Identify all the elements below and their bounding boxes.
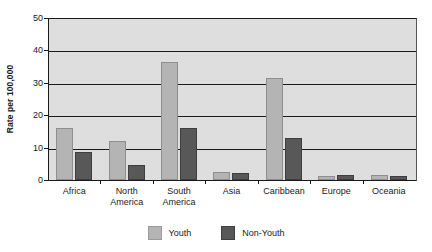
bar-youth-africa	[56, 128, 73, 180]
x-tick-mark	[310, 180, 311, 184]
y-tick-label: 30	[17, 78, 43, 88]
bar-youth-asia	[213, 172, 230, 180]
bar-youth-caribbean	[266, 78, 283, 180]
y-tick-mark	[44, 180, 48, 181]
bars-layer	[48, 18, 415, 180]
x-tick-mark	[205, 180, 206, 184]
y-tick-label: 20	[17, 110, 43, 120]
y-tick-label: 10	[17, 143, 43, 153]
y-tick-mark	[44, 18, 48, 19]
x-tick-mark	[363, 180, 364, 184]
x-axis-labels: AfricaNorthAmericaSouthAmericaAsiaCaribb…	[48, 186, 415, 214]
x-axis-line	[48, 180, 416, 181]
bar-group	[363, 18, 415, 180]
legend-entry-youth[interactable]: Youth	[148, 226, 192, 240]
bar-non-youth-north-america	[128, 165, 145, 180]
x-tick-mark	[258, 180, 259, 184]
chart-legend: YouthNon-Youth	[0, 222, 432, 244]
x-tick-mark	[100, 180, 101, 184]
bar-group	[48, 18, 100, 180]
y-tick-label: 40	[17, 45, 43, 55]
bar-non-youth-south-america	[180, 128, 197, 180]
legend-label: Non-Youth	[242, 228, 284, 238]
y-tick-mark	[44, 148, 48, 149]
bar-non-youth-africa	[75, 152, 92, 180]
bar-group	[153, 18, 205, 180]
bar-youth-south-america	[161, 62, 178, 180]
bar-group	[310, 18, 362, 180]
x-label-line: America	[145, 197, 213, 208]
x-tick-mark	[153, 180, 154, 184]
bar-group	[100, 18, 152, 180]
y-tick-mark	[44, 115, 48, 116]
y-axis-title: Rate per 100,000	[2, 18, 18, 180]
y-axis-title-text: Rate per 100,000	[5, 65, 15, 134]
y-tick-label: 50	[17, 13, 43, 23]
x-label-line: Oceania	[355, 186, 423, 197]
bar-group	[205, 18, 257, 180]
y-tick-mark	[44, 50, 48, 51]
bar-non-youth-caribbean	[285, 138, 302, 180]
legend-swatch-icon	[221, 226, 235, 240]
bar-group	[258, 18, 310, 180]
y-tick-mark	[44, 83, 48, 84]
legend-label: Youth	[169, 228, 192, 238]
legend-swatch-icon	[148, 226, 162, 240]
legend-entry-non-youth[interactable]: Non-Youth	[221, 226, 284, 240]
y-tick-label: 0	[17, 175, 43, 185]
x-label-oceania: Oceania	[355, 186, 423, 197]
bar-non-youth-asia	[232, 173, 249, 180]
bar-youth-north-america	[109, 141, 126, 180]
bar-chart-figure: Rate per 100,000 01020304050 AfricaNorth…	[0, 0, 432, 252]
